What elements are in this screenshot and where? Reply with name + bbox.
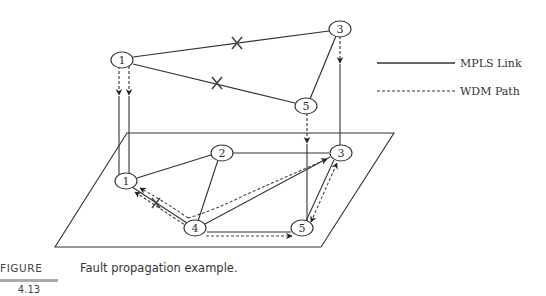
node-lower-2[interactable]: 2 (211, 145, 233, 161)
interlayer-links-node-1 (119, 66, 129, 176)
legend-wdm-label: WDM Path (460, 85, 520, 98)
node-lower-4[interactable]: 4 (184, 220, 206, 236)
legend: MPLS Link WDM Path (377, 57, 522, 98)
node-label: 5 (299, 222, 306, 235)
node-label: 5 (303, 100, 310, 113)
node-lower-1[interactable]: 1 (115, 173, 137, 189)
node-upper-5[interactable]: 5 (295, 98, 317, 114)
mpls-links-upper (133, 31, 336, 103)
node-label: 1 (123, 175, 130, 188)
node-label: 2 (219, 147, 226, 160)
node-upper-1[interactable]: 1 (111, 52, 133, 68)
node-label: 3 (337, 23, 344, 36)
caption-divider (0, 279, 58, 282)
figure-number: 4.13 (0, 284, 58, 295)
figure-caption: Fault propagation example. (80, 261, 238, 275)
node-label: 3 (338, 147, 345, 160)
figure-label: FIGURE (0, 262, 58, 274)
node-upper-3[interactable]: 3 (329, 21, 351, 37)
node-lower-5[interactable]: 5 (291, 220, 313, 236)
node-lower-3[interactable]: 3 (330, 145, 352, 161)
node-label: 1 (119, 54, 126, 67)
fault-propagation-diagram: 1 3 5 1 2 3 4 5 MPLS Link WDM Path (0, 0, 546, 296)
node-label: 4 (192, 222, 199, 235)
legend-mpls-label: MPLS Link (460, 57, 522, 70)
